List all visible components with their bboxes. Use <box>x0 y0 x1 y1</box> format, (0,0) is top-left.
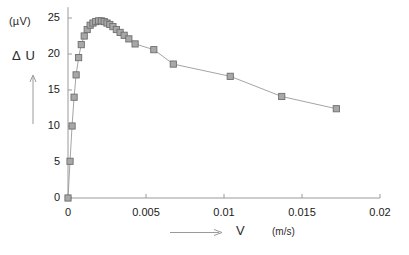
data-point-marker <box>78 42 84 48</box>
data-point-marker <box>279 93 285 99</box>
plot-canvas <box>0 0 409 255</box>
data-point-marker <box>333 106 339 112</box>
data-point-marker <box>65 195 71 201</box>
data-point-marker <box>132 41 138 47</box>
data-point-marker <box>76 55 82 61</box>
data-point-marker <box>73 72 79 78</box>
data-series-group <box>65 18 340 201</box>
data-point-marker <box>71 94 77 100</box>
series-line <box>68 21 336 198</box>
data-point-marker <box>170 61 176 67</box>
figure-delta-u-vs-v: (µV) Δ U V (m/s) 00.0050.010.0150.020510… <box>0 0 409 255</box>
axes-group <box>68 7 380 198</box>
data-point-marker <box>69 123 75 129</box>
data-point-marker <box>151 47 157 53</box>
data-point-marker <box>227 73 233 79</box>
data-point-marker <box>81 33 87 39</box>
data-point-marker <box>67 158 73 164</box>
data-point-marker <box>126 36 132 42</box>
